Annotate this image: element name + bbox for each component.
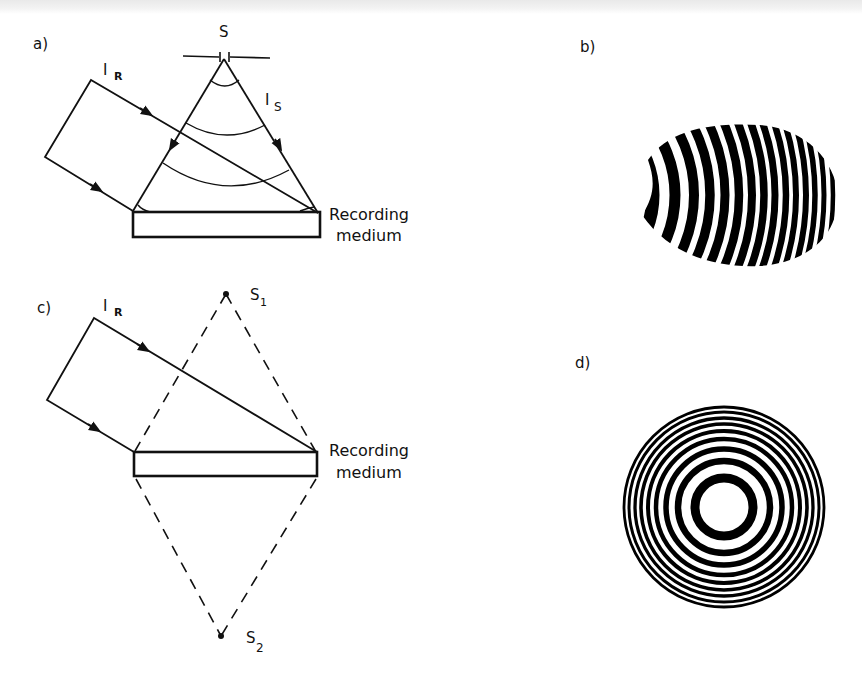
hologram-figure: a) S I R I xyxy=(0,0,862,682)
zone-plate-rings xyxy=(624,407,824,607)
s1-sub: 1 xyxy=(260,296,267,309)
medium-label-c-line2: medium xyxy=(336,463,402,482)
panel-a: a) S I R I xyxy=(33,23,409,245)
panel-d-label: d) xyxy=(575,354,590,372)
panel-c-label: c) xyxy=(37,299,51,317)
s1-label: S xyxy=(250,286,260,304)
reference-beam-label-a: I xyxy=(103,61,107,79)
s2-label: S xyxy=(246,629,256,647)
medium-label-c-line1: Recording xyxy=(329,441,409,460)
panel-c: c) S 1 I R Recording medium S 2 xyxy=(37,286,409,655)
medium-label-a-line2: medium xyxy=(336,226,402,245)
panel-d: d) xyxy=(575,354,824,607)
aperture-slit xyxy=(183,52,270,62)
reference-beam-c xyxy=(47,318,317,452)
signal-wave-cone xyxy=(133,59,318,213)
image-point-s2 xyxy=(218,633,224,639)
s2-sub: 2 xyxy=(256,641,264,655)
reference-beam-label-c: I xyxy=(103,297,107,315)
recording-medium-a xyxy=(133,212,320,237)
recording-medium-c xyxy=(134,452,317,476)
panel-a-label: a) xyxy=(33,35,48,53)
signal-beam-sub: S xyxy=(274,100,282,114)
reference-beam-sub-c: R xyxy=(114,306,123,319)
virtual-image-rays xyxy=(135,294,316,452)
wavefront-arcs xyxy=(138,80,314,212)
medium-label-a-line1: Recording xyxy=(329,205,409,224)
panel-b-label: b) xyxy=(580,38,595,56)
real-image-rays xyxy=(136,479,316,636)
signal-beam-label: I xyxy=(265,91,269,109)
reference-beam-sub-a: R xyxy=(114,70,123,83)
source-s-label: S xyxy=(219,23,229,41)
